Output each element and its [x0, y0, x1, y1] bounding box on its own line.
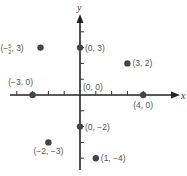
data-point [93, 155, 99, 161]
data-point [45, 139, 51, 145]
data-point [77, 123, 83, 129]
point-label: (−3, 0) [8, 77, 33, 87]
point-labels: (−52, 3)(0, 3)(3, 2)(−3, 0)(0, 0)(4, 0)(… [1, 43, 154, 164]
point-label: (0, −2) [85, 122, 110, 132]
point-label: (4, 0) [133, 100, 153, 110]
y-axis-label: y [76, 2, 82, 13]
data-point [37, 44, 43, 50]
data-points [29, 44, 146, 161]
x-axis-arrow-icon [171, 92, 180, 99]
point-label: (−52, 3) [1, 43, 24, 55]
data-point [77, 44, 83, 50]
point-label: (0, 0) [83, 82, 103, 92]
coordinate-plane: x y (−52, 3)(0, 3)(3, 2)(−3, 0)(0, 0)(4,… [0, 0, 187, 176]
data-point [29, 92, 35, 98]
point-label: (0, 3) [85, 43, 105, 53]
x-axis-label: x [180, 90, 186, 101]
data-point [140, 92, 146, 98]
point-label: (1, −4) [101, 153, 126, 163]
data-point [124, 60, 130, 66]
y-axis-arrow-icon [77, 14, 84, 23]
point-label: (−2, −3) [34, 146, 64, 156]
point-label: (3, 2) [132, 58, 152, 68]
